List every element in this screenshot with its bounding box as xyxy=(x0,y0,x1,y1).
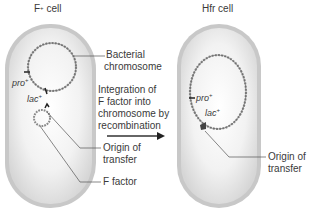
hfr-cell-title: Hfr cell xyxy=(202,3,233,15)
gene-pro-right: pro+ xyxy=(196,93,213,103)
process-line-1: Integration of xyxy=(98,84,156,96)
label-origin-of-right: Origin of xyxy=(268,151,306,163)
process-line-4: recombination xyxy=(98,120,161,132)
label-transfer-left: transfer xyxy=(103,154,137,166)
label-origin-of-left: Origin of xyxy=(103,142,141,154)
gene-pro-left: pro+ xyxy=(12,78,29,88)
label-chromosome: chromosome xyxy=(104,61,162,73)
process-line-3: chromosome by xyxy=(98,108,169,120)
gene-lac-right: lac+ xyxy=(205,108,220,118)
diagram-canvas xyxy=(0,0,313,212)
label-transfer-right: transfer xyxy=(268,163,302,175)
right-arrow-icon xyxy=(107,132,165,140)
process-line-2: F factor into xyxy=(98,96,151,108)
label-f-factor: F factor xyxy=(103,176,137,188)
label-bacterial: Bacterial xyxy=(106,49,145,61)
gene-lac-left: lac+ xyxy=(27,94,42,104)
f-plus-cell-title: F+ cell xyxy=(34,3,61,15)
